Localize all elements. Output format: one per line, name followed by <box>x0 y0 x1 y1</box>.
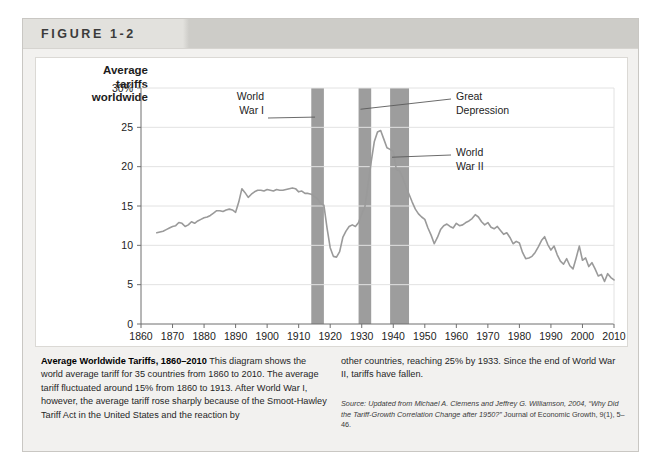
tariffs-line-chart: 051015202530% 18601870188018901900191019… <box>36 58 629 348</box>
x-tick-label-2000: 2000 <box>571 330 595 342</box>
caption-left-column: Average Worldwide Tariffs, 1860–2010 Thi… <box>41 355 329 422</box>
y-tick-label-10: 10 <box>121 239 133 251</box>
annotation-world-war-i-line-2: War I <box>239 104 264 116</box>
caption-title: Average Worldwide Tariffs, 1860–2010 <box>41 356 207 366</box>
x-tick-label-1990: 1990 <box>539 330 563 342</box>
x-tick-label-1950: 1950 <box>413 330 437 342</box>
y-tick-label-5: 5 <box>127 278 133 290</box>
x-tick-label-1880: 1880 <box>192 330 216 342</box>
x-tick-label-1870: 1870 <box>161 330 185 342</box>
caption-area: Average Worldwide Tariffs, 1860–2010 Thi… <box>35 355 628 441</box>
x-tick-label-1890: 1890 <box>224 330 248 342</box>
annotation-great-depression-line-2: Depression <box>456 104 509 116</box>
figure-number-label: FIGURE 1-2 <box>41 27 136 41</box>
annotations-group: WorldWar IGreatDepressionWorldWar II <box>237 90 510 172</box>
y-tick-label-0: 0 <box>127 318 133 330</box>
chart-panel: Average tariffs worldwide 051015202530% … <box>35 57 628 347</box>
x-tick-label-1960: 1960 <box>445 330 469 342</box>
caption-right-column: other countries, reaching 25% by 1933. S… <box>341 355 623 382</box>
y-tick-label-20: 20 <box>121 160 133 172</box>
figure-container: FIGURE 1-2 Average tariffs worldwide 051… <box>22 18 639 452</box>
x-tick-label-1970: 1970 <box>476 330 500 342</box>
gridlines-group <box>141 88 614 285</box>
x-tick-label-1860: 1860 <box>129 330 153 342</box>
x-tick-label-1910: 1910 <box>287 330 311 342</box>
x-tick-labels-group: 1860187018801890190019101920193019401950… <box>129 324 626 342</box>
caption-body-right: other countries, reaching 25% by 1933. S… <box>341 356 615 379</box>
x-tick-label-1980: 1980 <box>508 330 532 342</box>
annotation-great-depression-line-1: Great <box>456 90 482 102</box>
y-tick-label-15: 15 <box>121 200 133 212</box>
x-tick-label-1920: 1920 <box>319 330 343 342</box>
x-tick-label-2010: 2010 <box>602 330 626 342</box>
x-tick-label-1930: 1930 <box>350 330 374 342</box>
annotation-world-war-ii-line-1: World <box>456 146 483 158</box>
x-tick-label-1900: 1900 <box>255 330 279 342</box>
y-tick-label-30: 30% <box>112 82 133 94</box>
figure-header-bar: FIGURE 1-2 <box>23 19 638 49</box>
leader-line-world-war-i <box>268 117 315 118</box>
annotation-world-war-i-line-1: World <box>237 90 264 102</box>
y-tick-label-25: 25 <box>121 121 133 133</box>
x-tick-label-1940: 1940 <box>382 330 406 342</box>
caption-source: Source: Updated from Michael A. Clemens … <box>341 399 629 431</box>
y-tick-labels-group: 051015202530% <box>112 82 141 330</box>
annotation-world-war-ii-line-2: War II <box>456 160 484 172</box>
